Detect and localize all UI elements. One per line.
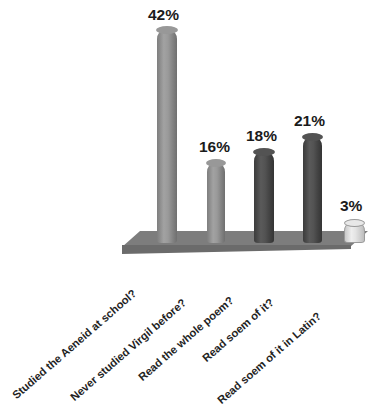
bar-cap <box>344 219 365 227</box>
bar-cap <box>302 133 323 141</box>
bar-cap <box>156 26 178 34</box>
category-label-0: Studied the Aeneid at school? <box>10 287 139 401</box>
value-label-1: 16% <box>199 138 230 156</box>
bar-read-some-of-it <box>303 137 322 243</box>
bar-chart: 42% 16% 18% 21% 3% Studied the Aeneid at… <box>0 0 377 411</box>
bar-never-studied-virgil <box>207 163 225 243</box>
bar-studied-aeneid <box>157 30 177 243</box>
bar-read-some-in-latin <box>344 222 365 243</box>
bar-cap <box>206 159 226 167</box>
category-label-4: Read soem of it in Latin? <box>215 310 323 406</box>
value-label-4: 3% <box>340 197 362 215</box>
bar-read-whole-poem <box>254 152 274 243</box>
bar-cap <box>253 148 275 156</box>
value-label-3: 21% <box>294 112 325 130</box>
chart-image: d at gil oem? 42% 16% 18% 21% 3% Studied… <box>0 0 377 411</box>
chart-base-platform-face <box>122 245 351 254</box>
value-label-0: 42% <box>148 6 179 24</box>
value-label-2: 18% <box>246 127 277 145</box>
